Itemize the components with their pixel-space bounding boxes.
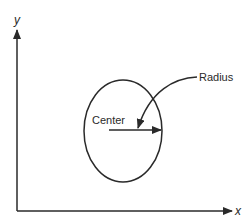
circle-shape [84,80,162,182]
y-axis-label: y [13,13,21,27]
center-label: Center [92,114,125,126]
diagram-canvas: y x Center Radius [0,0,252,222]
diagram-svg: y x Center Radius [0,0,252,222]
radius-label: Radius [199,71,234,83]
radius-callout-arrow [138,77,197,128]
x-axis-label: x [234,204,242,218]
